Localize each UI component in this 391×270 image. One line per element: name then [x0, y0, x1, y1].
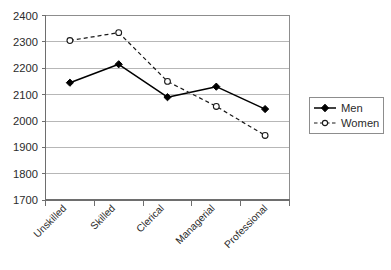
x-tick-label-professional: Professional: [222, 203, 269, 250]
x-tick-label-clerical: Clerical: [134, 203, 166, 235]
x-tick-marks: [46, 200, 290, 206]
data-point-women-skilled: [116, 30, 122, 36]
legend-marker-women-circle: [322, 120, 327, 125]
line-chart-figure: 2400 2300 2200 2100 2000 1900 1800 1700 …: [0, 0, 391, 270]
y-tick-label: 2300: [13, 36, 38, 48]
x-tick-labels: Unskilled Skilled Clerical Managerial Pr…: [31, 202, 269, 250]
legend-label-women: Women: [341, 117, 379, 129]
y-tick-label: 2100: [13, 89, 38, 101]
y-tick-label: 2000: [13, 115, 38, 127]
plot-background: [46, 16, 290, 201]
x-tick-label-unskilled: Unskilled: [31, 202, 68, 239]
y-tick-label: 2400: [13, 10, 38, 22]
y-tick-label: 1700: [13, 194, 38, 206]
y-tick-label: 2200: [13, 62, 38, 74]
data-point-women-unskilled: [67, 38, 73, 44]
chart-canvas: 2400 2300 2200 2100 2000 1900 1800 1700 …: [0, 0, 391, 270]
x-tick-label-managerial: Managerial: [173, 203, 216, 246]
y-tick-label: 1900: [13, 141, 38, 153]
legend-label-men: Men: [341, 102, 363, 114]
data-point-women-professional: [262, 133, 268, 139]
y-tick-label: 1800: [13, 168, 38, 180]
chart-legend: Men Women: [310, 98, 384, 134]
x-tick-label-skilled: Skilled: [88, 202, 117, 231]
data-point-women-managerial: [213, 104, 219, 110]
y-tick-labels: 2400 2300 2200 2100 2000 1900 1800 1700: [13, 10, 38, 207]
data-point-women-clerical: [165, 78, 171, 84]
